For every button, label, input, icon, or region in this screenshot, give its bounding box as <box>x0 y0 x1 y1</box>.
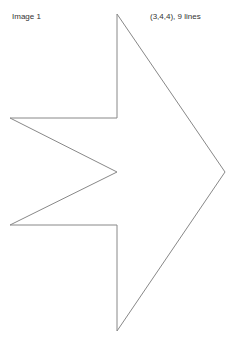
arrow-shape-diagram <box>0 0 230 340</box>
arrow-outline <box>10 14 225 331</box>
